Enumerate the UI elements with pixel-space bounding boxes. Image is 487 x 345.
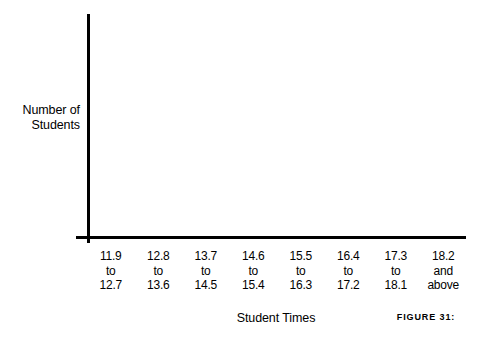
x-tick-label-3-line-3: 14.5 <box>182 278 230 293</box>
x-axis-line <box>76 236 466 239</box>
histogram-figure: Number of Students 11.9 to 12.7 12.8 to … <box>0 0 487 345</box>
x-tick-label-4-line-1: 14.6 <box>230 249 278 264</box>
x-tick-label-3: 13.7 to 14.5 <box>182 249 230 293</box>
x-tick-label-1-line-2: to <box>87 264 135 279</box>
x-tick-label-5-line-3: 16.3 <box>277 278 325 293</box>
x-tick-label-7-line-1: 17.3 <box>372 249 420 264</box>
x-tick-label-6-line-3: 17.2 <box>325 278 373 293</box>
x-tick-label-2: 12.8 to 13.6 <box>135 249 183 293</box>
x-tick-label-6-line-2: to <box>325 264 373 279</box>
x-tick-label-8-line-2: and <box>420 264 468 279</box>
figure-caption: FIGURE 31: <box>376 312 476 322</box>
x-tick-label-7-line-3: 18.1 <box>372 278 420 293</box>
x-tick-label-2-line-3: 13.6 <box>135 278 183 293</box>
x-tick-label-3-line-1: 13.7 <box>182 249 230 264</box>
x-tick-label-6-line-1: 16.4 <box>325 249 373 264</box>
x-tick-label-8-line-1: 18.2 <box>420 249 468 264</box>
x-tick-label-7-line-2: to <box>372 264 420 279</box>
x-tick-label-8-line-3: above <box>420 278 468 293</box>
x-tick-label-4: 14.6 to 15.4 <box>230 249 278 293</box>
x-tick-label-5-line-1: 15.5 <box>277 249 325 264</box>
y-axis-label-line-1: Number of <box>0 103 80 118</box>
x-tick-label-1: 11.9 to 12.7 <box>87 249 135 293</box>
x-tick-label-5: 15.5 to 16.3 <box>277 249 325 293</box>
x-axis-title: Student Times <box>201 311 351 326</box>
x-tick-label-1-line-3: 12.7 <box>87 278 135 293</box>
x-tick-label-6: 16.4 to 17.2 <box>325 249 373 293</box>
x-tick-label-2-line-1: 12.8 <box>135 249 183 264</box>
x-tick-label-8: 18.2 and above <box>420 249 468 293</box>
y-axis-label-line-2: Students <box>0 118 80 133</box>
x-tick-label-4-line-2: to <box>230 264 278 279</box>
x-tick-label-3-line-2: to <box>182 264 230 279</box>
x-tick-label-5-line-2: to <box>277 264 325 279</box>
x-axis-tick-labels: 11.9 to 12.7 12.8 to 13.6 13.7 to 14.5 1… <box>87 249 467 293</box>
x-tick-label-2-line-2: to <box>135 264 183 279</box>
y-axis-line <box>87 14 90 243</box>
x-tick-label-7: 17.3 to 18.1 <box>372 249 420 293</box>
y-axis-label: Number of Students <box>0 103 80 133</box>
x-tick-label-4-line-3: 15.4 <box>230 278 278 293</box>
x-tick-label-1-line-1: 11.9 <box>87 249 135 264</box>
